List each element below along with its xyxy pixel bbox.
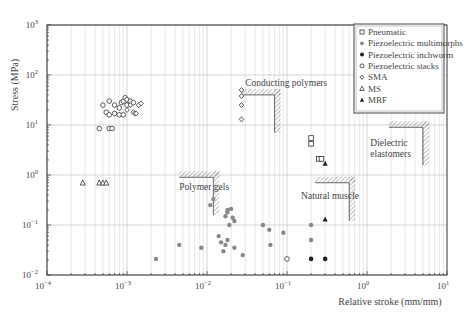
annotation-label: elastomers (370, 149, 411, 159)
svg-text:SMA: SMA (368, 72, 388, 82)
x-tick-label: 10−4 (35, 279, 52, 291)
legend-item: Piezoelectric inchworm (360, 50, 453, 60)
y-tick-label: 101 (26, 118, 38, 130)
svg-text:Piezoelectric inchworm: Piezoelectric inchworm (368, 50, 453, 60)
series-sma (125, 88, 244, 122)
legend-item: Piezoelectric stacks (360, 61, 439, 71)
y-axis-label: Stress (MPa) (9, 59, 21, 111)
x-tick-label: 100 (357, 279, 369, 291)
svg-text:Piezoelectric stacks: Piezoelectric stacks (368, 61, 439, 71)
x-axis-label: Relative stroke (mm/mm) (338, 296, 441, 308)
legend-item: Piezoelectric multimorphs (360, 38, 463, 48)
x-axis-ticks: 10−410−310−210−1100101 (35, 271, 449, 291)
annotation-label: Polymer gels (179, 182, 229, 192)
series-piezoelectric-stacks (97, 95, 289, 261)
y-tick-label: 100 (26, 168, 38, 180)
x-tick-label: 10−1 (275, 279, 291, 291)
series-piezoelectric-multimorphs (154, 197, 314, 261)
x-tick-label: 10−3 (115, 279, 131, 291)
x-tick-label: 101 (437, 279, 449, 291)
svg-text:Piezoelectric multimorphs: Piezoelectric multimorphs (368, 38, 463, 48)
svg-text:Pneumatic: Pneumatic (368, 27, 406, 37)
series-ms (80, 180, 109, 185)
svg-text:MRF: MRF (368, 95, 387, 105)
region-conducting-polymers (241, 89, 281, 133)
x-tick-label: 10−2 (195, 279, 211, 291)
y-tick-label: 103 (26, 18, 38, 30)
y-tick-label: 102 (26, 68, 38, 80)
annotation-label: Natural muscle (301, 191, 359, 201)
annotation-label: Conducting polymers (245, 78, 327, 88)
y-tick-label: 10−2 (22, 268, 38, 280)
series-piezoelectric-inchworm (309, 257, 328, 262)
svg-text:MS: MS (368, 84, 381, 94)
annotation-label: Dielectric (370, 138, 407, 148)
y-tick-label: 10−1 (22, 218, 38, 230)
stress-stroke-chart: Conducting polymersPolymer gelsNatural m… (0, 0, 467, 314)
